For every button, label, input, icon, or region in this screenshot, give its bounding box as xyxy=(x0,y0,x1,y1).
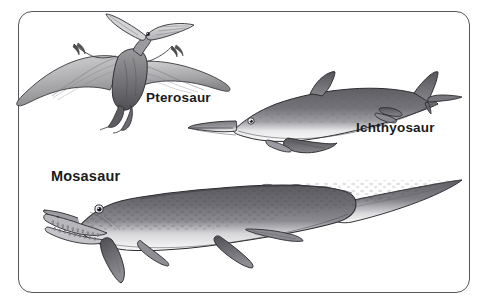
label-pterosaur: Pterosaur xyxy=(146,91,211,105)
plate-border xyxy=(18,11,470,293)
label-mosasaur: Mosasaur xyxy=(51,169,120,184)
label-ichthyosaur: Ichthyosaur xyxy=(356,121,435,135)
illustration-plate: Pterosaur Ichthyosaur Mosasaur xyxy=(0,0,487,301)
